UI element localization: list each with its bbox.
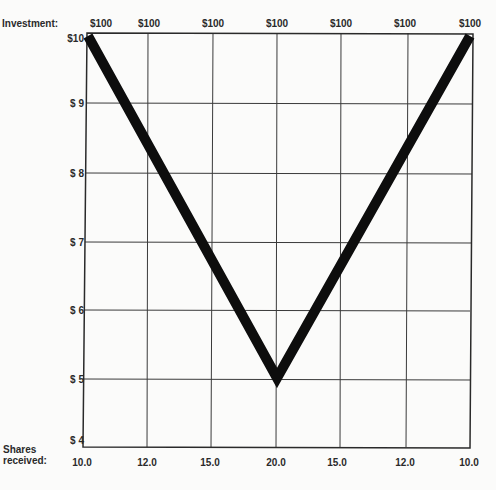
- grid-line-horizontal: [85, 242, 471, 243]
- grid-line-horizontal: [86, 173, 472, 174]
- grid-line-horizontal: [85, 310, 470, 311]
- grid-line-vertical: [147, 33, 148, 447]
- price-line: [88, 36, 470, 378]
- grid-line-horizontal: [86, 103, 472, 104]
- chart-plot-area: [0, 0, 496, 490]
- grid-line-vertical: [406, 33, 408, 447]
- grid-line-vertical: [340, 33, 341, 447]
- grid-line-vertical: [211, 33, 213, 447]
